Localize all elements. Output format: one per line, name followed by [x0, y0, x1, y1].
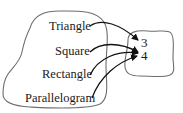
arrow-rectangle-to-4 [90, 52, 138, 75]
arrow-triangle-to-3 [90, 22, 138, 40]
codomain-item-4: 4 [141, 48, 148, 63]
domain-item-rectangle: Rectangle [42, 67, 92, 81]
domain-item-square: Square [55, 44, 90, 58]
mapping-diagram: Triangle Square Rectangle Parallelogram … [0, 0, 183, 113]
arrow-parallelogram-to-4 [92, 56, 137, 98]
domain-item-triangle: Triangle [49, 19, 91, 33]
arrow-square-to-4 [90, 45, 138, 53]
domain-item-parallelogram: Parallelogram [25, 91, 95, 105]
codomain-set-blob [125, 31, 174, 77]
